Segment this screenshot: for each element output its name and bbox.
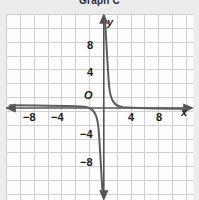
x-tick-label-8: 8 <box>156 112 162 123</box>
y-tick-label-8: 8 <box>87 40 93 51</box>
y-tick-label-neg8: −8 <box>80 157 93 168</box>
coordinate-plane <box>6 14 193 200</box>
x-tick-label-neg8: −8 <box>23 112 36 123</box>
branch-quadrant-I <box>105 21 189 109</box>
x-axis-label: x <box>181 107 187 118</box>
origin-label: O <box>84 90 93 101</box>
y-tick-label-neg4: −4 <box>80 129 93 140</box>
y-axis-label: y <box>107 17 113 28</box>
graph-figure: Graph C <box>0 0 199 200</box>
x-tick-label-neg4: −4 <box>51 112 64 123</box>
x-tick-label-4: 4 <box>128 112 134 123</box>
hyperbola-curve <box>6 14 193 200</box>
figure-title: Graph C <box>0 0 199 6</box>
y-tick-label-4: 4 <box>87 67 93 78</box>
